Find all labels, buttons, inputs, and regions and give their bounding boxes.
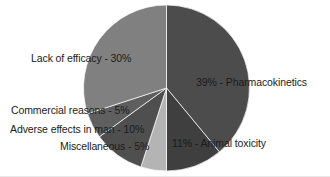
pie-chart-figure: 39% - Pharmacokinetics 11% - Animal toxi… — [0, 0, 330, 177]
slice-label-miscellaneous: Miscellaneous - 5% — [60, 140, 149, 152]
slice-label-animal-toxicity: 11% - Animal toxicity — [172, 137, 266, 149]
pie-plot-area — [0, 0, 330, 177]
slice-label-commercial-reasons: Commercial reasons - 5% — [11, 104, 130, 116]
slice-label-pharmacokinetics: 39% - Pharmacokinetics — [196, 76, 307, 88]
slice-label-adverse-effects-in-man: Adverse effects in man - 10% — [10, 123, 144, 135]
slice-label-lack-of-efficacy: Lack of efficacy - 30% — [31, 52, 131, 64]
pie-svg — [0, 0, 330, 177]
